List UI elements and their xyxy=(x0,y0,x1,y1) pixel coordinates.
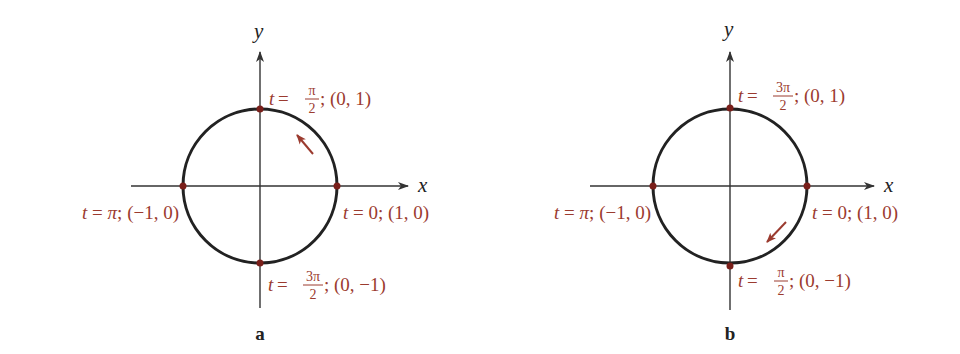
svg-text:t: t xyxy=(738,85,744,106)
svg-text:;: ; xyxy=(794,85,799,106)
caption-a: a xyxy=(255,323,265,344)
direction-arrow-icon xyxy=(297,135,313,154)
coord-top: (0, 1) xyxy=(330,88,371,110)
svg-text:;: ; xyxy=(324,274,329,295)
svg-text:;: ; xyxy=(789,270,794,291)
y-axis-label: y xyxy=(252,19,264,43)
svg-text:π: π xyxy=(777,265,784,280)
svg-text:(0, −1): (0, −1) xyxy=(799,270,851,292)
label-top: t = 3π 2 ; (0, 1) xyxy=(738,80,845,113)
svg-text:=: = xyxy=(277,274,288,295)
label-bottom: t = π 2 ; (0, −1) xyxy=(738,265,851,298)
point-left xyxy=(180,183,187,190)
svg-text:t: t xyxy=(738,270,744,291)
label-right: t = 0; (1, 0) xyxy=(812,202,898,224)
svg-text:=: = xyxy=(747,270,758,291)
svg-text:2: 2 xyxy=(780,98,787,113)
frac-den: 2 xyxy=(309,101,316,116)
svg-text:2: 2 xyxy=(310,287,317,302)
svg-text:(0, 1): (0, 1) xyxy=(804,85,845,107)
label-bottom: t = 3π 2 ; (0, −1) xyxy=(268,269,386,302)
point-bottom xyxy=(727,263,734,270)
point-right xyxy=(334,183,341,190)
t-var: t xyxy=(269,88,275,109)
svg-text:3π: 3π xyxy=(306,269,320,284)
svg-text:3π: 3π xyxy=(776,80,790,95)
label-right: t = 0; (1, 0) xyxy=(343,202,429,224)
label-left: t = π; (−1, 0) xyxy=(554,202,651,224)
frac-num: π xyxy=(308,83,315,98)
x-axis-label: x xyxy=(417,173,428,197)
direction-arrow-icon xyxy=(767,222,786,242)
label-top: t = π 2 ; (0, 1) xyxy=(269,83,371,116)
point-top xyxy=(257,106,264,113)
x-axis-label: x xyxy=(883,173,894,197)
diagram-a: x y t = π 2 ; (0, 1) t = 0; (1, 0) t = π… xyxy=(82,19,429,344)
point-bottom xyxy=(257,260,264,267)
equals: = xyxy=(278,88,289,109)
y-axis-label: y xyxy=(722,17,734,41)
point-top xyxy=(727,105,734,112)
caption-b: b xyxy=(725,323,736,344)
label-left: t = π; (−1, 0) xyxy=(82,202,179,224)
point-right xyxy=(804,183,811,190)
point-left xyxy=(650,183,657,190)
diagram-b: x y t = 3π 2 ; (0, 1) t = 0; (1, 0) t = … xyxy=(554,17,898,344)
svg-text:=: = xyxy=(747,85,758,106)
svg-text:t: t xyxy=(268,274,274,295)
svg-text:2: 2 xyxy=(778,283,785,298)
semicolon: ; xyxy=(320,88,325,109)
parametric-circle-figure: x y t = π 2 ; (0, 1) t = 0; (1, 0) t = π… xyxy=(0,0,960,354)
svg-text:(0, −1): (0, −1) xyxy=(334,274,386,296)
